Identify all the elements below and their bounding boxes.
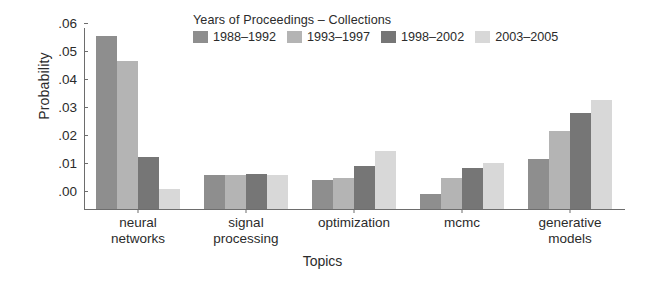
bar[interactable] (159, 189, 180, 209)
bar-group (528, 28, 612, 209)
legend-item[interactable]: 1988–1992 (193, 30, 276, 44)
bar-group (204, 28, 288, 209)
bar[interactable] (117, 61, 138, 209)
bar[interactable] (267, 175, 288, 209)
bar-group (420, 28, 504, 209)
chart-legend: Years of Proceedings – Collections 1988–… (193, 13, 558, 44)
bar[interactable] (225, 175, 246, 209)
x-axis-title: Topics (0, 253, 645, 269)
y-axis-title: Probability (36, 6, 52, 166)
legend-title: Years of Proceedings – Collections (193, 13, 558, 27)
bar[interactable] (246, 174, 267, 209)
y-tick-mark (84, 135, 88, 136)
bar[interactable] (549, 131, 570, 209)
legend-item[interactable]: 2003–2005 (475, 30, 558, 44)
legend-swatch (193, 31, 208, 43)
y-tick: .02 (58, 126, 84, 144)
y-tick-label: .06 (58, 16, 84, 31)
y-tick-mark (84, 51, 88, 52)
bar-group (96, 28, 180, 209)
bar[interactable] (528, 159, 549, 209)
y-tick: .00 (58, 182, 84, 200)
legend-swatch (475, 31, 490, 43)
y-tick-label: .04 (58, 72, 84, 87)
y-tick-mark (84, 107, 88, 108)
x-category-label: generativemodels (495, 215, 645, 247)
bar[interactable] (483, 163, 504, 209)
bar[interactable] (354, 166, 375, 209)
bar[interactable] (591, 100, 612, 209)
x-tick-mark (138, 209, 139, 213)
y-tick: .04 (58, 70, 84, 88)
y-tick-mark (84, 191, 88, 192)
y-tick: .03 (58, 98, 84, 116)
bar[interactable] (462, 168, 483, 209)
y-tick-mark (84, 23, 88, 24)
x-category-line: processing (171, 231, 321, 247)
y-tick: .01 (58, 154, 84, 172)
x-tick-mark (570, 209, 571, 213)
x-axis-line (84, 209, 625, 210)
x-tick-mark (462, 209, 463, 213)
plot-area: .00.01.02.03.04.05.06 (84, 28, 624, 209)
bar[interactable] (441, 178, 462, 209)
y-tick-label: .00 (58, 184, 84, 199)
y-tick-label: .03 (58, 100, 84, 115)
legend-label: 1993–1997 (307, 30, 370, 44)
y-tick-label: .05 (58, 44, 84, 59)
y-tick: .05 (58, 42, 84, 60)
bar[interactable] (420, 194, 441, 209)
legend-label: 2003–2005 (495, 30, 558, 44)
legend-swatch (287, 31, 302, 43)
y-tick-label: .02 (58, 128, 84, 143)
bar-group (312, 28, 396, 209)
y-tick-label: .01 (58, 156, 84, 171)
legend-label: 1998–2002 (401, 30, 464, 44)
x-tick-mark (354, 209, 355, 213)
bar[interactable] (375, 151, 396, 209)
bar[interactable] (96, 36, 117, 209)
y-tick-mark (84, 163, 88, 164)
legend-item[interactable]: 1993–1997 (287, 30, 370, 44)
legend-item[interactable]: 1998–2002 (381, 30, 464, 44)
bar[interactable] (204, 175, 225, 209)
x-tick-mark (246, 209, 247, 213)
bar[interactable] (138, 157, 159, 209)
bar[interactable] (570, 113, 591, 209)
x-category-line: generative (495, 215, 645, 231)
bar[interactable] (333, 178, 354, 209)
legend-label: 1988–1992 (213, 30, 276, 44)
y-tick: .06 (58, 14, 84, 32)
bar-chart-figure: Probability .00.01.02.03.04.05.06 neural… (0, 0, 645, 288)
legend-swatch (381, 31, 396, 43)
y-tick-mark (84, 79, 88, 80)
bar[interactable] (312, 180, 333, 209)
x-category-line: models (495, 231, 645, 247)
legend-entries: 1988–19921993–19971998–20022003–2005 (193, 30, 558, 44)
